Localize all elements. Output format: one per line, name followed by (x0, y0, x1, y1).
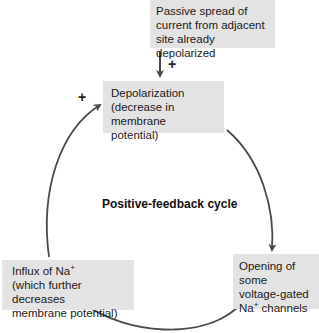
node-text-line: voltage-gated (239, 287, 313, 301)
node-text-line: current from adjacent (156, 18, 269, 32)
node-text-line: (decrease in (111, 100, 216, 114)
node-influx: Influx of Na+ (which further decreases m… (2, 260, 134, 310)
node-text-line: Opening of some (239, 259, 313, 287)
node-text-line: membrane potential) (12, 306, 124, 320)
text: channels (258, 302, 307, 314)
node-text-line: Na+ channels (239, 301, 313, 315)
node-text-line: Influx of Na+ (12, 264, 124, 278)
node-opening-channels: Opening of some voltage-gated Na+ channe… (233, 254, 319, 309)
text: Influx of Na (12, 265, 70, 277)
plus-sign-left: + (78, 89, 86, 105)
text: Na (239, 302, 254, 314)
node-text-line: Depolarization (111, 86, 216, 100)
superscript: + (70, 263, 75, 272)
node-text-line: (which further decreases (12, 278, 124, 306)
cycle-title: Positive-feedback cycle (102, 197, 237, 211)
arrow-influx-to-depolarization (47, 105, 100, 257)
node-text-line: membrane potential) (111, 114, 216, 142)
node-depolarization: Depolarization (decrease in membrane pot… (103, 81, 224, 133)
arrow-depolarization-to-opening (227, 130, 272, 250)
node-text-line: Passive spread of (156, 4, 269, 18)
plus-sign-top: + (168, 56, 176, 72)
node-passive-spread: Passive spread of current from adjacent … (150, 0, 275, 48)
